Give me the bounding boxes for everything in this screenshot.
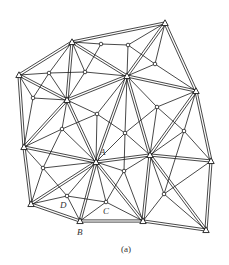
circle-node-icon <box>95 112 99 116</box>
main-edge-T7-T8 <box>24 148 96 163</box>
circle-node-icon <box>153 62 157 66</box>
figure-caption: (a) <box>121 244 131 254</box>
main-edge-T11-T12 <box>31 203 80 220</box>
main-edge-T3-T6 <box>20 74 68 99</box>
edge-T2-c5 <box>155 23 165 64</box>
main-edge-T13-T14 <box>143 220 206 229</box>
main-edge-T2-T5 <box>164 23 195 91</box>
edge-c9-T7 <box>24 129 62 147</box>
edge-c10-c13 <box>124 133 125 171</box>
main-edge-T14-T10 <box>205 161 210 230</box>
edge-c4-T4 <box>85 72 127 76</box>
main-edge-T3-T7 <box>20 75 25 147</box>
circle-node-icon <box>31 96 35 100</box>
main-edge-T4-T5 <box>127 75 196 90</box>
edge-c16-T13 <box>106 202 143 221</box>
circle-node-icon <box>47 71 51 75</box>
main-edge-T9-T14 <box>151 154 207 229</box>
circle-node-icon <box>99 42 103 46</box>
circle-node-icon <box>104 200 108 204</box>
label-d: D <box>59 200 67 210</box>
edge-c7-T4 <box>97 76 127 114</box>
main-edge-T6-T7 <box>23 99 66 146</box>
circle-node-icon <box>123 131 127 135</box>
circle-node-icon <box>122 169 126 173</box>
main-edge-T6-T8 <box>68 100 97 162</box>
edge-c7-T8 <box>96 114 97 162</box>
edge-c3-T6 <box>49 73 67 100</box>
edge-c1-c2 <box>101 44 128 45</box>
circle-node-icon <box>155 105 159 109</box>
main-edge-T9-T4 <box>128 76 151 155</box>
main-edge-T4-T5 <box>127 77 196 92</box>
edge-T8-c16 <box>96 162 106 202</box>
main-edge-T10-T5 <box>197 91 212 161</box>
edge-c7-c9 <box>62 114 97 129</box>
label-b: B <box>77 227 83 237</box>
main-edge-T9-T5 <box>151 92 197 156</box>
edge-c9-c12 <box>43 129 62 168</box>
edge-c8-c11 <box>157 107 184 131</box>
edge-T9-c14 <box>150 155 164 194</box>
edge-c4-T1 <box>72 42 85 72</box>
edge-c11-T9 <box>150 131 184 155</box>
edge-c2-T4 <box>127 45 128 76</box>
main-edge-T9-T14 <box>149 156 205 231</box>
main-edge-T1-T6 <box>66 42 71 100</box>
circle-node-icon <box>41 166 45 170</box>
edge-c8-T5 <box>157 91 196 107</box>
main-edge-T13-T14 <box>143 222 206 231</box>
circle-node-icon <box>162 192 166 196</box>
edge-c1-c4 <box>85 44 101 72</box>
edge-c12-T8 <box>43 162 96 168</box>
main-edge-T1-T3 <box>20 43 73 76</box>
main-edge-T1-T3 <box>18 41 71 74</box>
circle-node-icon <box>60 127 64 131</box>
triangulation-network-diagram: A B C D (a) <box>0 0 229 265</box>
edge-c5-T5 <box>155 64 196 91</box>
main-edge-T4-T2 <box>128 24 166 77</box>
edge-c14-T10 <box>164 161 211 194</box>
main-edge-T9-T5 <box>149 90 195 154</box>
edge-c3-c4 <box>49 72 85 73</box>
edge-c5-T4 <box>127 64 155 76</box>
label-a: A <box>99 147 106 157</box>
edge-c6-T7 <box>24 98 33 147</box>
main-edge-T6-T8 <box>66 100 95 162</box>
main-edge-T3-T7 <box>18 75 23 147</box>
label-c: C <box>103 206 110 216</box>
edge-c13-T13 <box>124 171 143 221</box>
main-edge-T2-T5 <box>166 23 197 91</box>
circle-node-icon <box>83 70 87 74</box>
edge-c11-c14 <box>164 131 184 194</box>
main-edge-T11-T12 <box>31 205 80 222</box>
circle-node-icon <box>182 129 186 133</box>
main-edge-T14-T10 <box>207 161 212 230</box>
circle-node-icon <box>126 43 130 47</box>
edge-c10-T9 <box>125 133 150 155</box>
minor-edges <box>19 23 211 230</box>
edge-c2-T2 <box>128 23 165 45</box>
main-edge-T10-T5 <box>195 91 210 161</box>
circle-node-icon <box>65 194 69 198</box>
